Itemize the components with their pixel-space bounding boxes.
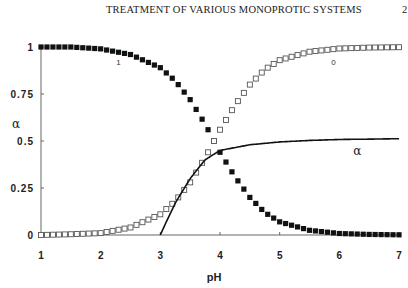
marker-open-square [134,222,139,227]
marker-filled-square [158,65,163,70]
marker-filled-square [146,60,151,65]
marker-filled-square [283,221,288,226]
marker-open-square [343,46,348,51]
plot-area: 10α [38,44,401,237]
marker-open-square [253,76,258,81]
marker-open-square [68,232,73,237]
marker-filled-square [241,187,246,192]
marker-open-square [367,45,372,50]
marker-filled-square [343,231,348,236]
x-axis-title: pH [207,271,222,283]
marker-open-square [379,45,384,50]
series-open-square [39,45,402,238]
marker-filled-square [205,127,210,132]
x-tick-label: 1 [38,250,44,261]
marker-filled-square [295,224,300,229]
marker-open-square [56,232,61,237]
marker-filled-square [277,219,282,224]
marker-filled-square [361,232,366,237]
marker-open-square [122,226,127,231]
marker-filled-square [289,223,294,228]
alpha-vs-ph-chart: 123456700.250.50.751 10α pH α [0,0,408,288]
marker-filled-square [247,195,252,200]
marker-filled-square [301,226,306,231]
marker-open-square [74,232,79,237]
marker-open-square [385,45,390,50]
marker-filled-square [194,107,199,112]
marker-open-square [349,46,354,51]
marker-filled-square [176,82,181,87]
y-tick-label: 0.25 [11,183,34,194]
marker-filled-square [134,55,139,60]
marker-filled-square [325,230,330,235]
marker-open-square [86,231,91,236]
marker-filled-square [74,45,79,50]
y-tick-label: 1 [27,42,34,53]
marker-open-square [140,220,145,225]
marker-filled-square [373,232,378,237]
marker-filled-square [128,52,133,57]
x-tick-label: 6 [337,250,343,261]
marker-open-square [265,65,270,70]
marker-filled-square [384,232,389,237]
marker-filled-square [62,44,67,49]
marker-open-square [50,232,55,237]
marker-open-square [62,232,67,237]
marker-open-square [235,99,240,104]
marker-filled-square [259,207,264,212]
marker-filled-square [367,232,372,237]
marker-open-square [206,150,211,155]
marker-open-square [152,214,157,219]
marker-filled-square [331,230,336,235]
marker-open-square [307,49,312,54]
marker-filled-square [50,44,55,49]
marker-filled-square [390,232,395,237]
marker-filled-square [313,228,318,233]
marker-open-square [223,117,228,122]
marker-open-square [295,53,300,58]
x-tick-label: 7 [396,250,402,261]
marker-open-square [92,231,97,236]
marker-open-square [110,228,115,233]
marker-filled-square [235,178,240,183]
marker-filled-square [98,46,103,51]
marker-filled-square [38,44,43,49]
x-tick-label: 3 [158,250,164,261]
marker-filled-square [229,169,234,174]
marker-filled-square [164,70,169,75]
x-tick-label: 4 [217,250,223,261]
marker-open-square [391,45,396,50]
marker-open-square [313,49,318,54]
marker-open-square [289,54,294,59]
marker-filled-square [104,47,109,52]
marker-filled-square [396,232,401,237]
axes [41,47,399,235]
marker-filled-square [253,201,258,206]
curve-label: 0 [331,58,336,67]
marker-open-square [128,225,133,230]
marker-filled-square [265,212,270,217]
marker-open-square [319,48,324,53]
marker-filled-square [319,229,324,234]
marker-filled-square [92,46,97,51]
marker-filled-square [170,76,175,81]
marker-filled-square [271,215,276,220]
marker-open-square [241,90,246,95]
marker-open-square [337,46,342,51]
marker-open-square [39,233,44,238]
marker-filled-square [349,231,354,236]
marker-filled-square [200,117,205,122]
marker-filled-square [122,51,127,56]
marker-open-square [271,61,276,66]
marker-open-square [283,56,288,61]
y-tick-label: 0.75 [11,89,34,100]
curve-label: α [353,144,361,158]
marker-filled-square [182,90,187,95]
marker-open-square [229,108,234,113]
marker-open-square [373,45,378,50]
marker-filled-square [116,50,121,55]
marker-open-square [104,229,109,234]
y-axis-title: α [12,117,20,131]
x-tick-label: 5 [277,250,283,261]
curve-label: 1 [116,58,121,67]
